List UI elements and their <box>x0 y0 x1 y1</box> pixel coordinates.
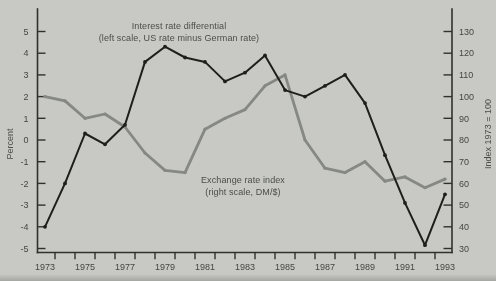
interest-annotation-line2: (left scale, US rate minus German rate) <box>99 33 259 43</box>
left-axis-tick-label: 3 <box>23 70 28 80</box>
exchange-rate-index-point <box>143 151 146 154</box>
x-axis-tick-label: 1975 <box>75 262 95 272</box>
left-axis-tick-label: 2 <box>23 92 28 102</box>
interest-rate-differential-point <box>283 88 287 92</box>
exchange-rate-index-point <box>103 112 106 115</box>
x-axis-tick-label: 1977 <box>115 262 135 272</box>
exchange-rate-index-line <box>45 75 445 188</box>
right-axis-tick-label: 80 <box>459 135 469 145</box>
exchange-rate-index-point <box>363 160 366 163</box>
exchange-annotation-line2: (right scale, DM/$) <box>205 187 280 197</box>
right-axis-tick-label: 30 <box>459 244 469 254</box>
interest-rate-differential-point <box>63 182 67 186</box>
exchange-rate-index-point <box>223 117 226 120</box>
right-axis-tick-label: 90 <box>459 114 469 124</box>
left-axis-tick-label: 1 <box>23 114 28 124</box>
right-axis-tick-label: 120 <box>459 48 474 58</box>
interest-rate-differential-point <box>343 73 347 77</box>
interest-rate-differential-point <box>303 95 307 99</box>
exchange-rate-index-point <box>323 167 326 170</box>
right-axis-tick-label: 40 <box>459 222 469 232</box>
exchange-rate-index-point <box>63 99 66 102</box>
exchange-rate-index-point <box>263 84 266 87</box>
right-axis-tick-label: 130 <box>459 27 474 37</box>
left-axis-tick-label: -3 <box>20 200 28 210</box>
interest-rate-differential-point <box>243 71 247 75</box>
exchange-rate-index-point <box>423 186 426 189</box>
left-axis-tick-label: -2 <box>20 179 28 189</box>
exchange-rate-index-point <box>283 73 286 76</box>
x-axis-tick-label: 1989 <box>355 262 375 272</box>
interest-rate-differential-point <box>143 60 147 64</box>
x-axis-tick-label: 1973 <box>35 262 55 272</box>
right-axis-tick-label: 110 <box>459 70 473 80</box>
interest-rate-differential-point <box>123 123 127 127</box>
right-axis-tick-label: 70 <box>459 157 469 167</box>
left-axis-tick-label: 5 <box>23 27 28 37</box>
interest-rate-differential-point <box>263 54 267 58</box>
exchange-rate-index-point <box>43 95 46 98</box>
chart-svg: 543210-1-2-3-4-5130120110100908070605040… <box>0 0 496 281</box>
exchange-rate-index-point <box>203 128 206 131</box>
interest-rate-differential-point <box>323 84 327 88</box>
exchange-rate-index-point <box>383 180 386 183</box>
exchange-rate-index-point <box>303 138 306 141</box>
left-axis-tick-label: 4 <box>23 48 28 58</box>
exchange-rate-index-point <box>83 117 86 120</box>
right-axis-tick-label: 60 <box>459 179 469 189</box>
interest-rate-differential-point <box>423 243 427 247</box>
right-axis-tick-label: 100 <box>459 92 474 102</box>
interest-rate-differential-point <box>43 225 47 229</box>
interest-rate-differential-point <box>203 60 207 64</box>
exchange-rate-index-point <box>443 178 446 181</box>
interest-rate-differential-point <box>363 101 367 105</box>
interest-rate-differential-point <box>163 45 167 49</box>
interest-rate-differential-point <box>223 80 227 84</box>
x-axis-tick-label: 1985 <box>275 262 295 272</box>
left-axis-tick-label: -4 <box>20 222 28 232</box>
left-axis-title: Percent <box>5 128 15 160</box>
exchange-rate-index-point <box>343 171 346 174</box>
exchange-annotation-line1: Exchange rate index <box>201 175 285 185</box>
interest-annotation-line1: Interest rate differential <box>132 21 227 31</box>
x-axis-tick-label: 1983 <box>235 262 255 272</box>
left-axis-tick-label: -1 <box>20 157 28 167</box>
exchange-rate-index-point <box>403 175 406 178</box>
interest-rate-differential-point <box>83 132 87 136</box>
exchange-rate-index-point <box>163 169 166 172</box>
x-axis-tick-label: 1981 <box>195 262 215 272</box>
interest-rate-differential-point <box>443 192 447 196</box>
left-axis-tick-label: -5 <box>20 244 28 254</box>
chart-generated-layer: 543210-1-2-3-4-5130120110100908070605040… <box>20 9 474 272</box>
interest-rate-differential-point <box>103 142 107 146</box>
right-axis-title: Index 1973 = 100 <box>483 99 493 169</box>
interest-rate-differential-point <box>403 201 407 205</box>
left-axis-tick-label: 0 <box>23 135 28 145</box>
exchange-rate-index-point <box>243 108 246 111</box>
right-axis-tick-label: 50 <box>459 200 469 210</box>
chart-figure: 543210-1-2-3-4-5130120110100908070605040… <box>0 0 496 281</box>
x-axis-tick-label: 1987 <box>315 262 335 272</box>
x-axis-tick-label: 1991 <box>395 262 415 272</box>
x-axis-tick-label: 1993 <box>435 262 455 272</box>
interest-rate-differential-point <box>383 153 387 157</box>
interest-rate-differential-point <box>183 56 187 60</box>
x-axis-tick-label: 1979 <box>155 262 175 272</box>
exchange-rate-index-point <box>183 171 186 174</box>
